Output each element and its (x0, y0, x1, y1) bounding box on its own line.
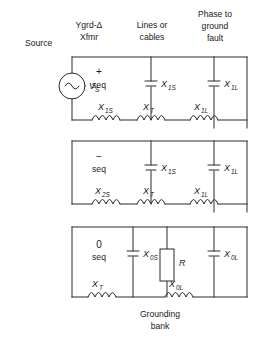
row1-sequence-sign: + (96, 66, 102, 77)
header-fault-line-1: ground (202, 21, 229, 31)
header-fault-line-2: fault (207, 33, 224, 43)
row2-sequence-label: seq (92, 164, 106, 174)
grounding-resistor-label: R (179, 258, 186, 268)
grounding-resistor-icon: R (160, 249, 186, 281)
zero-sequence-network: 0 seq X T X 0L X 0S X 0L R (72, 227, 247, 297)
row1-inductor-line-sym: X (193, 102, 201, 112)
row2-cap-source-sub: 1S (168, 168, 177, 175)
row2-capacitor-load-side: X 1L (208, 163, 239, 175)
row1-cap-source-sym: X (160, 79, 168, 89)
row3-cap-source-sym: X (142, 249, 150, 259)
caption-line-1: bank (151, 321, 170, 331)
row3-sequence-sign: 0 (96, 239, 102, 250)
row2-cap-load-sub: 1L (231, 168, 239, 175)
row1-inductor-transformer-sub: T (150, 107, 155, 114)
row1-inductor-line-sub: 1L (201, 107, 209, 114)
header-fault-line-0: Phase to (198, 9, 232, 19)
row3-inductor-line-sub: 0L (176, 284, 184, 291)
row3-cap-source-sub: 0S (150, 254, 159, 261)
header-source-line-0: Source (25, 38, 52, 48)
row3-capacitor-load-side: X 0L (208, 249, 239, 261)
row2-inductor-line-sym: X (193, 186, 201, 196)
row2-inductor-transformer-sub: T (150, 191, 155, 198)
row3-inductor-line: X 0L (165, 279, 193, 297)
row2-inductor-source-sub: 2S (101, 191, 111, 198)
row3-inductor-transformer: X T (88, 279, 116, 297)
row2-cap-source-sym: X (160, 163, 168, 173)
row2-inductor-source-sym: X (94, 186, 102, 196)
row1-cap-load-sub: 1L (231, 84, 239, 91)
row1-inductor-source-sub: 1S (105, 107, 114, 114)
row3-inductor-transformer-sym: X (91, 279, 99, 289)
header-lines-cables-line-0: Lines or (137, 20, 168, 30)
row1-inductor-source: X 1S (92, 102, 120, 120)
header-transformer-line-1: Xfmr (80, 32, 98, 42)
row2-inductor-line-sub: 1L (201, 191, 209, 198)
caption-line-0: Grounding (140, 309, 180, 319)
row1-capacitor-load-side: X 1L (208, 79, 239, 91)
row3-sequence-label: seq (92, 252, 106, 262)
row2-inductor-source: X 2S (92, 186, 120, 204)
row1-inductor-transformer-sym: X (142, 102, 150, 112)
row3-cap-load-sub: 0L (231, 254, 239, 261)
row1-capacitor-source-side: X 1S (145, 79, 177, 91)
row2-capacitor-source-side: X 1S (145, 163, 177, 175)
row3-inductor-transformer-sub: T (99, 284, 104, 291)
grounding-bank-caption: Grounding bank (140, 309, 180, 331)
row1-cap-load-sym: X (223, 79, 231, 89)
row2-inductor-transformer-sym: X (142, 186, 150, 196)
row1-cap-source-sub: 1S (168, 84, 177, 91)
positive-sequence-network: V S + seq X 1S X T X 1L X 1S (59, 57, 247, 128)
row3-cap-load-sym: X (223, 249, 231, 259)
header-transformer-line-0: Ygrd-Δ (76, 20, 103, 30)
sine-wave-icon (65, 83, 79, 89)
row1-sequence-label: seq (92, 80, 106, 90)
header-row: Source Ygrd-Δ Xfmr Lines or cables Phase… (25, 9, 232, 48)
row2-sequence-sign: − (96, 151, 102, 162)
header-lines-cables-line-1: cables (140, 32, 165, 42)
sequence-network-diagram: Source Ygrd-Δ Xfmr Lines or cables Phase… (0, 0, 267, 347)
row1-inductor-source-sym: X (97, 102, 105, 112)
row2-cap-load-sym: X (223, 163, 231, 173)
row3-capacitor-source-side: X 0S (127, 249, 159, 261)
negative-sequence-network: − seq X 2S X T X 1L X 1S X 1L (72, 141, 247, 212)
